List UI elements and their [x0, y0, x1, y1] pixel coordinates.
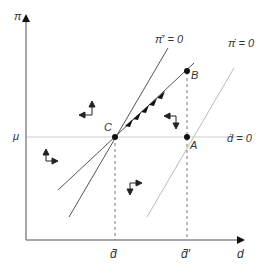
label-pi-dot: π̇ = 0 [228, 37, 255, 49]
label-point-a: A [189, 139, 197, 151]
saddle-arrow-icon [133, 112, 141, 120]
saddle-arrow-icon [149, 98, 157, 106]
label-d-dot: ḋ = 0 [227, 132, 253, 144]
phase-arrows-upper-left [79, 101, 95, 118]
x-axis-arrow-icon [237, 236, 245, 244]
label-point-c: C [104, 121, 112, 133]
label-point-b: B [191, 69, 198, 81]
y-axis-arrow-icon [22, 14, 30, 22]
saddle-arrow-icon [141, 105, 149, 113]
point-b [184, 68, 190, 74]
phase-arrows-upper-right [164, 113, 179, 129]
x-tick-d-bar-prime: d̄′ [181, 247, 191, 261]
x-axis-label: d [237, 247, 244, 261]
phase-arrows-lower-left [43, 149, 58, 164]
phase-arrows-lower-right [127, 180, 142, 195]
y-axis-label: π [14, 10, 22, 22]
x-tick-d-bar: d̄ [110, 247, 117, 261]
pi-dot-prime-zero-line [69, 48, 168, 217]
phase-diagram: π d μ d̄ d̄′ π̇′ = 0 π̇ = 0 ḋ = 0 A B C [0, 0, 268, 274]
saddle-arrow-icon [157, 91, 165, 99]
y-tick-mu: μ [12, 130, 19, 142]
saddle-path-arrows [125, 91, 165, 127]
point-c [112, 134, 118, 140]
label-pi-dot-prime: π̇′ = 0 [155, 33, 184, 45]
